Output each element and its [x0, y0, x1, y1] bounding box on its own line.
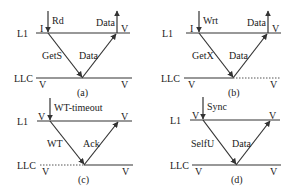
request-label: SelfU — [191, 138, 215, 149]
l1-state-after: V — [269, 110, 277, 121]
l1-state-after: V — [121, 111, 129, 122]
llc-state-before: V — [39, 79, 47, 90]
return-label: Data — [96, 17, 115, 28]
panel-caption: (d) — [231, 174, 243, 186]
llc-label: LLC — [161, 73, 180, 84]
l1-label: L1 — [162, 28, 173, 39]
trigger-label: Rd — [52, 15, 64, 26]
l1-label: L1 — [170, 115, 181, 126]
response-label: Data — [229, 50, 248, 61]
panel-c: L1 V V WT-timeout WT Ack LLC V V (c) — [17, 98, 133, 186]
l1-state-before: I — [40, 23, 43, 34]
panel-d: L1 V V Sync SelfU Data LLC V V (d) — [170, 97, 281, 186]
llc-label: LLC — [170, 160, 189, 171]
panel-caption: (a) — [77, 87, 88, 99]
response-label: Data — [232, 138, 251, 149]
response-label: Data — [79, 50, 98, 61]
request-label: GetS — [42, 50, 62, 61]
panel-b: L1 I V Wrt Data GetX Data LLC V V (b) — [161, 11, 281, 99]
l1-state-before: V — [38, 111, 46, 122]
l1-state-after: V — [272, 23, 280, 34]
panel-caption: (c) — [78, 174, 89, 186]
llc-state-after: V — [122, 166, 130, 177]
llc-label: LLC — [17, 160, 36, 171]
panel-a: L1 I V Rd Data GetS Data LLC V V (a) — [14, 11, 132, 99]
l1-label: L1 — [17, 28, 28, 39]
llc-label: LLC — [14, 73, 33, 84]
request-label: GetX — [192, 50, 214, 61]
l1-state-before: V — [192, 110, 200, 121]
llc-state-before: V — [195, 166, 203, 177]
trigger-label: WT-timeout — [54, 102, 103, 113]
llc-state-before: V — [42, 166, 50, 177]
llc-state-after: V — [270, 79, 278, 90]
llc-state-after: V — [121, 79, 129, 90]
response-label: Ack — [83, 138, 100, 149]
l1-state-after: V — [121, 23, 129, 34]
request-label: WT — [47, 138, 63, 149]
llc-state-before: V — [188, 79, 196, 90]
l1-label: L1 — [17, 116, 28, 127]
panel-caption: (b) — [228, 87, 240, 99]
trigger-label: Sync — [207, 101, 228, 112]
llc-state-after: V — [270, 166, 278, 177]
coherence-diagram: L1 I V Rd Data GetS Data LLC V V (a) L1 … — [0, 0, 295, 191]
l1-state-before: I — [190, 23, 193, 34]
return-label: Data — [247, 17, 266, 28]
trigger-label: Wrt — [203, 15, 218, 26]
